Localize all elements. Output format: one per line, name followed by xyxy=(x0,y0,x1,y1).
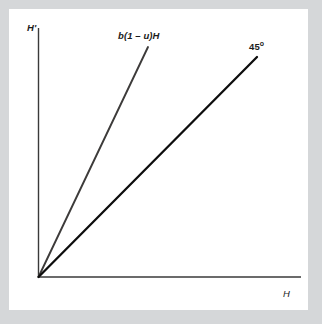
curve-label-45-degree: 45o xyxy=(249,41,264,52)
x-axis-label: H xyxy=(283,288,290,299)
plot-area: H' H b(1 – u)H 45o xyxy=(9,9,308,310)
curve-45-line xyxy=(39,57,258,277)
y-axis-label: H' xyxy=(27,22,36,33)
curve-bu-line xyxy=(39,47,149,277)
plot-svg xyxy=(9,9,308,310)
figure-card: H' H b(1 – u)H 45o xyxy=(9,9,308,310)
curve-label-bu: b(1 – u)H xyxy=(118,30,160,41)
degree-symbol-icon: o xyxy=(260,40,264,47)
figure-root: H' H b(1 – u)H 45o xyxy=(0,0,322,324)
curve-label-45-number: 45 xyxy=(249,41,260,52)
